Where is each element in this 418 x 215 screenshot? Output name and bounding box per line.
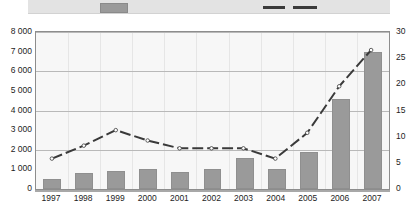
line-series-layer [36,32,389,189]
bar-series-swatch-icon [100,3,128,13]
chart-container: 8 0007 0006 0005 0004 0003 0002 0001 000… [0,0,418,215]
line-point-2005 [305,131,309,135]
line-point-1997 [50,157,54,161]
line-series-swatch-icon [263,6,317,9]
y-axis-left-tick: 6 000 [2,66,32,75]
x-axis-tick-2004: 2004 [260,193,292,203]
line-series-svg [36,32,389,189]
y-axis-left-tick: 7 000 [2,47,32,56]
x-axis-tick-2007: 2007 [356,193,388,203]
y-axis-left-tick: 5 000 [2,86,32,95]
x-axis-tick-2001: 2001 [163,193,195,203]
line-point-2004 [274,157,278,161]
y-axis-left: 8 0007 0006 0005 0004 0003 0002 0001 000… [0,31,32,190]
y-axis-right-tick: 5 [396,158,401,167]
y-axis-right: 302520151050 [393,31,418,190]
line-point-2002 [210,147,214,151]
y-axis-left-tick: 0 [2,184,32,193]
x-axis-tick-2000: 2000 [131,193,163,203]
y-axis-right-tick: 0 [396,184,401,193]
y-axis-right-tick: 10 [396,132,405,141]
x-axis-tick-1999: 1999 [99,193,131,203]
y-axis-left-tick: 8 000 [2,27,32,36]
y-axis-right-tick: 30 [396,27,405,36]
x-axis-tick-1998: 1998 [67,193,99,203]
x-axis-baseline [35,190,390,192]
x-axis-tick-2006: 2006 [324,193,356,203]
y-axis-right-tick: 20 [396,79,405,88]
line-series-path [52,50,371,159]
x-axis-tick-2005: 2005 [292,193,324,203]
y-axis-right-tick: 15 [396,106,405,115]
line-point-2001 [178,147,182,151]
y-axis-left-tick: 1 000 [2,164,32,173]
x-axis-tick-2003: 2003 [228,193,260,203]
x-axis-tick-2002: 2002 [195,193,227,203]
line-point-2003 [242,147,246,151]
line-point-2007 [369,48,373,52]
y-axis-left-tick: 4 000 [2,106,32,115]
line-point-1998 [82,144,86,148]
x-axis-tick-1997: 1997 [35,193,67,203]
chart-legend [28,0,390,14]
y-axis-left-tick: 2 000 [2,145,32,154]
line-point-2006 [337,85,341,89]
plot-area [35,31,390,190]
x-axis: 1997199819992000200120022003200420052006… [35,193,390,213]
y-axis-left-tick: 3 000 [2,125,32,134]
line-point-2000 [146,139,150,143]
line-point-1999 [114,128,118,132]
y-axis-right-tick: 25 [396,53,405,62]
